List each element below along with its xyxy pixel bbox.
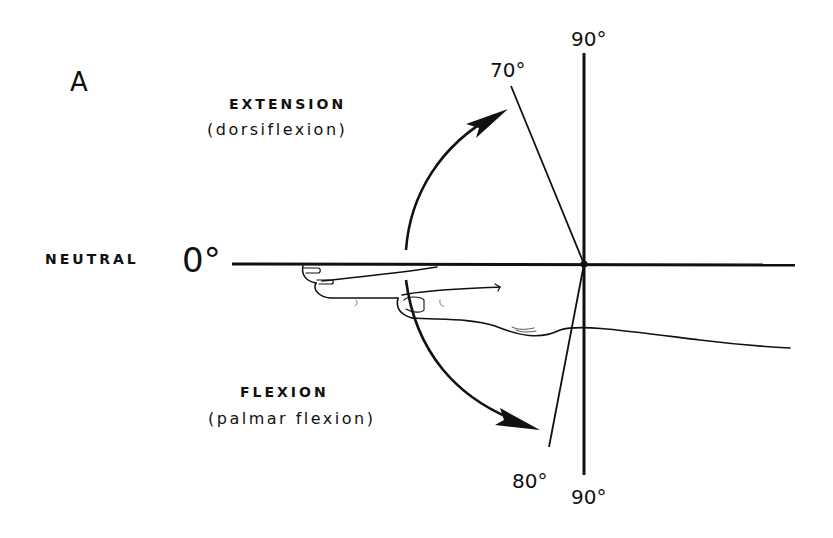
- hand-illustration: [303, 266, 790, 348]
- bottom-reference-angle-label: 90°: [571, 485, 606, 509]
- flexion-label: FLEXION: [240, 384, 329, 400]
- flexion-angle-label: 80°: [512, 469, 547, 493]
- neutral-label: NEUTRAL: [45, 251, 139, 267]
- extension-angle-label: 70°: [490, 58, 525, 82]
- neutral-axis-line: [232, 264, 795, 265]
- extension-arc: [406, 115, 495, 250]
- neutral-angle-label: 0°: [182, 240, 221, 280]
- wrist-range-of-motion-diagram: A EXTENSION (dorsiflexion) 70° 90° NEUTR…: [0, 0, 833, 538]
- panel-label: A: [70, 67, 88, 97]
- extension-arrowhead-icon: [466, 109, 508, 138]
- flexion-80-line: [549, 264, 584, 447]
- extension-label: EXTENSION: [229, 96, 346, 112]
- extension-sublabel: (dorsiflexion): [207, 120, 347, 139]
- extension-70-line: [511, 86, 584, 264]
- flexion-sublabel: (palmar flexion): [208, 409, 375, 428]
- top-reference-angle-label: 90°: [571, 27, 606, 51]
- flexion-arrowhead-icon: [495, 408, 540, 430]
